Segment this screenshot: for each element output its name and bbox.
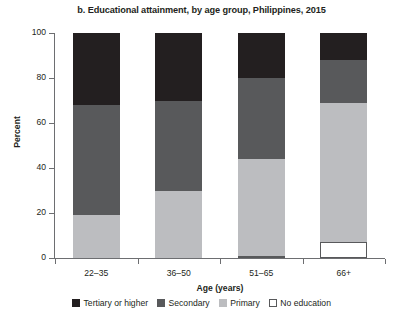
y-axis-tick bbox=[49, 258, 54, 259]
y-axis-tick-label: 80 bbox=[6, 72, 46, 82]
bar-segment[interactable] bbox=[320, 103, 367, 243]
x-axis-tick bbox=[138, 259, 139, 264]
legend-label: No education bbox=[280, 298, 331, 308]
legend-item[interactable]: Secondary bbox=[157, 298, 210, 308]
plot-area bbox=[55, 33, 385, 258]
y-axis-tick-label: 60 bbox=[6, 117, 46, 127]
legend-label: Primary bbox=[230, 298, 260, 308]
bar-segment[interactable] bbox=[155, 33, 202, 101]
x-axis-title: Age (years) bbox=[55, 283, 385, 293]
bar-segment[interactable] bbox=[73, 33, 120, 105]
y-axis-tick bbox=[49, 33, 54, 34]
legend-swatch-icon bbox=[72, 299, 80, 307]
legend-swatch-icon bbox=[219, 299, 227, 307]
legend-item[interactable]: Tertiary or higher bbox=[72, 298, 148, 308]
bar-stack[interactable] bbox=[155, 33, 202, 258]
bar-segment[interactable] bbox=[320, 242, 367, 258]
y-axis-tick-label: 40 bbox=[6, 162, 46, 172]
bar-segment[interactable] bbox=[73, 105, 120, 215]
legend-item[interactable]: No education bbox=[269, 298, 331, 308]
x-axis-category-label: 22–35 bbox=[56, 268, 136, 278]
legend-swatch-icon bbox=[157, 299, 165, 307]
x-axis-category-label: 51–65 bbox=[221, 268, 301, 278]
bar-segment[interactable] bbox=[320, 33, 367, 60]
bar-segment[interactable] bbox=[238, 78, 285, 159]
y-axis-title: Percent bbox=[12, 97, 22, 167]
y-axis-tick bbox=[49, 123, 54, 124]
bar-segment[interactable] bbox=[155, 101, 202, 191]
y-axis-tick bbox=[49, 168, 54, 169]
bar-segment[interactable] bbox=[320, 60, 367, 103]
x-axis-category-label: 36–50 bbox=[139, 268, 219, 278]
bar-stack[interactable] bbox=[73, 33, 120, 258]
bar-stack[interactable] bbox=[320, 33, 367, 258]
bar-segment[interactable] bbox=[238, 33, 285, 78]
legend-label: Secondary bbox=[169, 298, 210, 308]
legend-swatch-icon bbox=[269, 299, 277, 307]
bar-segment[interactable] bbox=[155, 191, 202, 259]
legend-label: Tertiary or higher bbox=[84, 298, 148, 308]
x-axis-tick bbox=[303, 259, 304, 264]
x-axis-tick bbox=[385, 259, 386, 264]
chart-figure: b. Educational attainment, by age group,… bbox=[0, 0, 403, 320]
y-axis-tick bbox=[49, 213, 54, 214]
y-axis-tick bbox=[49, 78, 54, 79]
chart-title: b. Educational attainment, by age group,… bbox=[0, 5, 403, 15]
legend-item[interactable]: Primary bbox=[219, 298, 260, 308]
y-axis-tick-label: 100 bbox=[6, 27, 46, 37]
y-axis-tick-label: 20 bbox=[6, 207, 46, 217]
y-axis-tick-label: 0 bbox=[6, 252, 46, 262]
bar-segment[interactable] bbox=[73, 215, 120, 258]
bar-segment[interactable] bbox=[238, 256, 285, 258]
bar-segment[interactable] bbox=[238, 159, 285, 256]
x-axis-tick bbox=[55, 259, 56, 264]
x-axis-category-label: 66+ bbox=[304, 268, 384, 278]
x-axis-tick bbox=[220, 259, 221, 264]
bar-stack[interactable] bbox=[238, 33, 285, 258]
chart-legend: Tertiary or higherSecondaryPrimaryNo edu… bbox=[0, 298, 403, 308]
